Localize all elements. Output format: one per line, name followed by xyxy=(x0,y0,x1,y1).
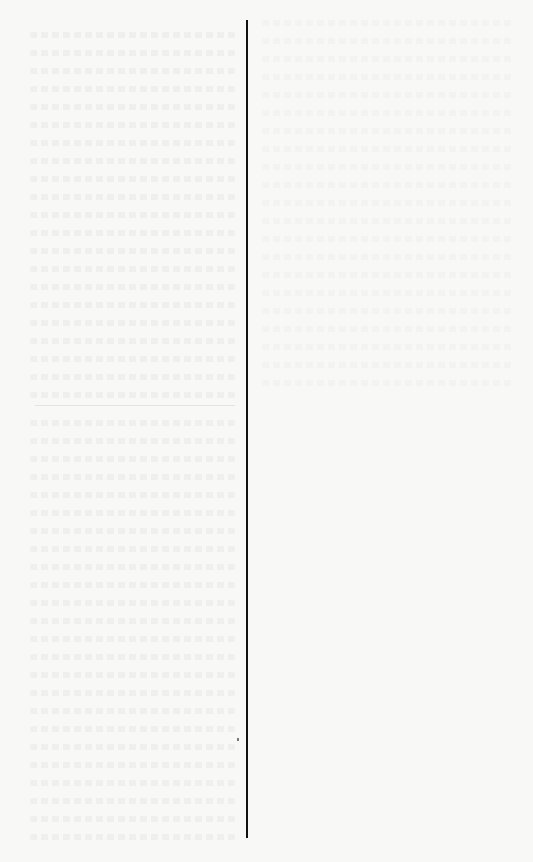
ink-speck xyxy=(237,738,239,741)
faint-horizontal-rule xyxy=(35,405,235,406)
scanned-page: Blank page with illegible show-through t… xyxy=(0,0,533,862)
vertical-rule xyxy=(246,20,248,838)
page-description: Blank page with illegible show-through t… xyxy=(0,0,1,1)
